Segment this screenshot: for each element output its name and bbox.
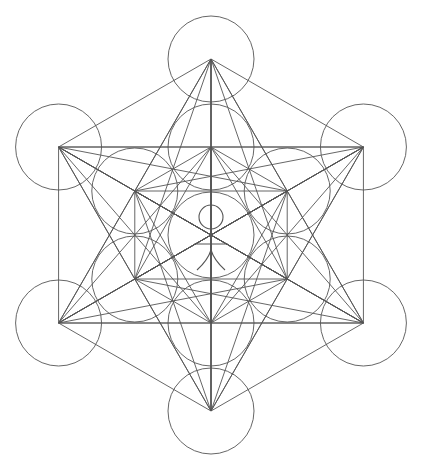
connecting-line <box>59 59 211 147</box>
connecting-line <box>135 147 364 191</box>
connecting-line <box>135 59 211 279</box>
connecting-line <box>135 279 364 323</box>
connecting-lines <box>59 59 364 411</box>
connecting-line <box>211 323 363 411</box>
connecting-line <box>135 191 211 411</box>
connecting-line <box>211 59 363 147</box>
metatrons-cube-diagram <box>0 0 422 468</box>
connecting-line <box>59 323 211 411</box>
figure-right-leg <box>211 250 225 270</box>
figure-left-leg <box>197 250 211 270</box>
